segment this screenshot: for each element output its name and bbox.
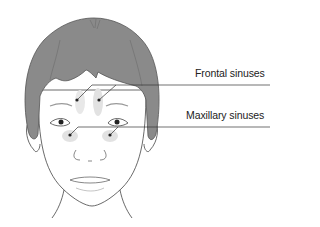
frontal-sinus-right-shade	[93, 88, 103, 116]
right-pupil	[115, 120, 120, 125]
face-outline	[38, 90, 146, 206]
left-pupil	[59, 120, 64, 125]
maxillary-sinus-left-dot	[68, 133, 71, 136]
frontal-sinuses-label: Frontal sinuses	[195, 67, 265, 79]
frontal-sinus-right-dot	[97, 98, 100, 101]
frontal-sinus-left-dot	[75, 98, 78, 101]
maxillary-sinus-right-dot	[108, 133, 111, 136]
maxillary-sinuses-label: Maxillary sinuses	[186, 109, 264, 121]
